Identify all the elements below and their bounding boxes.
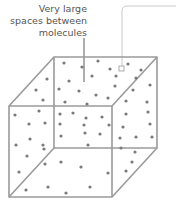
callout-marker-square — [119, 66, 124, 71]
molecule-dot — [59, 134, 62, 137]
molecule-dot — [57, 87, 60, 90]
molecule-dot — [85, 102, 88, 105]
molecule-dot — [121, 125, 124, 128]
molecule-dot — [77, 89, 80, 92]
molecule-dot — [113, 84, 116, 87]
molecule-dot — [42, 147, 45, 150]
molecule-dot — [27, 122, 30, 125]
molecule-dot — [96, 59, 99, 62]
molecule-dot — [124, 99, 127, 102]
molecule-dot — [106, 171, 109, 174]
molecule-dot — [124, 169, 127, 172]
molecule-dot — [84, 116, 87, 119]
molecule-dot — [45, 77, 48, 80]
molecule-dot — [131, 88, 134, 91]
molecule-dot — [14, 143, 17, 146]
molecule-dot — [118, 136, 121, 139]
molecule-dot — [43, 162, 46, 165]
molecule-dot — [100, 115, 103, 118]
molecule-dot — [79, 165, 82, 168]
molecule-dot — [107, 123, 110, 126]
molecule-dot — [37, 109, 40, 112]
molecule-dot — [28, 137, 31, 140]
gas-cube-diagram — [0, 0, 176, 209]
molecule-dot — [139, 68, 142, 71]
molecule-dot — [83, 131, 86, 134]
molecule-dot — [114, 74, 117, 77]
molecule-dot — [82, 123, 85, 126]
molecule-dot — [145, 100, 148, 103]
molecule-dot — [41, 98, 44, 101]
molecule-dot — [58, 122, 61, 125]
molecule-dot — [41, 143, 44, 146]
molecule-dot — [71, 111, 74, 114]
molecule-dot — [150, 135, 153, 138]
molecule-dot — [86, 143, 89, 146]
molecule-dot — [58, 112, 61, 115]
molecule-dot — [134, 135, 137, 138]
molecule-dot — [46, 185, 49, 188]
molecule-dot — [34, 88, 37, 91]
molecule-dot — [134, 76, 137, 79]
molecule-dot — [148, 83, 151, 86]
molecule-dot — [17, 170, 20, 173]
molecule-dot — [64, 191, 67, 194]
molecule-dot — [43, 121, 46, 124]
molecule-dot — [98, 132, 101, 135]
molecule-dot — [130, 160, 133, 163]
molecule-dot — [90, 74, 93, 77]
molecule-dot — [13, 113, 16, 116]
molecule-dot — [63, 100, 66, 103]
molecule-dot — [124, 112, 127, 115]
molecule-dot — [108, 67, 111, 70]
molecule-dot — [88, 185, 91, 188]
molecule-dot — [133, 150, 136, 153]
molecule-dot — [25, 154, 28, 157]
molecule-dot — [80, 65, 83, 68]
molecule-dot — [126, 62, 129, 65]
molecule-dot — [146, 110, 149, 113]
molecule-dot — [119, 146, 122, 149]
molecule-dot — [148, 122, 151, 125]
molecule-dot — [94, 93, 97, 96]
molecule-dot — [106, 96, 109, 99]
molecule-dot — [67, 79, 70, 82]
molecule-dot — [24, 188, 27, 191]
molecule-dot — [59, 160, 62, 163]
molecule-dot — [62, 61, 65, 64]
